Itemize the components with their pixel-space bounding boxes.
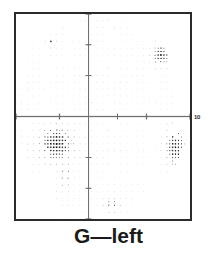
axis-edge-tick-label: 10 <box>194 113 200 121</box>
visual-field-plot-canvas <box>16 14 190 219</box>
figure-caption: G—left <box>0 224 217 248</box>
visual-field-figure: 10 G—left <box>0 0 217 256</box>
plot-frame <box>14 12 192 221</box>
